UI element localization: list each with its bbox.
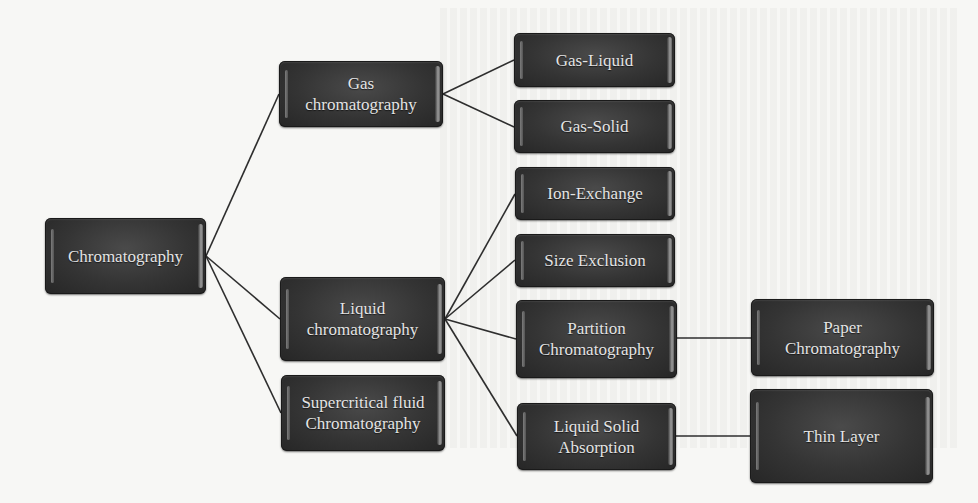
- node-label-line2: chromatography: [307, 320, 418, 339]
- node-label-line1: Paper: [823, 318, 862, 337]
- node-gas-solid[interactable]: Gas-Solid: [514, 100, 675, 153]
- node-label-line2: chromatography: [305, 95, 416, 114]
- node-label-line2: Chromatography: [785, 339, 900, 358]
- node-liquid-solid-absorption[interactable]: Liquid Solid Absorption: [517, 403, 676, 470]
- node-label: Liquid Solid Absorption: [544, 416, 649, 458]
- node-label-line1: Liquid: [340, 299, 385, 318]
- node-gas-liquid[interactable]: Gas-Liquid: [514, 33, 675, 87]
- edge-gas-gassolid: [443, 94, 514, 127]
- edge-root-supercritical: [206, 256, 281, 413]
- node-label: Supercritical fluid Chromatography: [297, 392, 428, 434]
- node-gas-chromatography[interactable]: Gas chromatography: [279, 61, 443, 127]
- node-label: Thin Layer: [794, 426, 890, 447]
- node-label-line1: Gas: [348, 74, 374, 93]
- node-thin-layer[interactable]: Thin Layer: [750, 389, 933, 483]
- node-size-exclusion[interactable]: Size Exclusion: [515, 234, 675, 287]
- node-supercritical-fluid-chromatography[interactable]: Supercritical fluid Chromatography: [281, 375, 445, 451]
- node-label: Gas chromatography: [295, 73, 426, 115]
- node-label: Ion-Exchange: [537, 183, 652, 204]
- node-label: Gas-Liquid: [546, 50, 643, 71]
- edge-gas-gasliquid: [443, 60, 514, 94]
- node-label: Chromatography: [58, 246, 193, 267]
- node-label-line2: Absorption: [558, 438, 635, 457]
- edge-root-gas: [206, 94, 279, 256]
- node-label: Size Exclusion: [534, 250, 656, 271]
- node-label-line2: Chromatography: [305, 414, 420, 433]
- edge-liquid-sizeexclusion: [445, 260, 515, 319]
- node-chromatography[interactable]: Chromatography: [45, 218, 206, 294]
- node-label: Gas-Solid: [551, 116, 639, 137]
- node-label: Paper Chromatography: [775, 317, 910, 359]
- edge-root-liquid: [206, 256, 280, 319]
- node-ion-exchange[interactable]: Ion-Exchange: [515, 167, 675, 220]
- node-paper-chromatography[interactable]: Paper Chromatography: [751, 299, 934, 376]
- node-partition-chromatography[interactable]: Partition Chromatography: [516, 300, 677, 378]
- node-label: Liquid chromatography: [297, 298, 428, 340]
- node-label: Partition Chromatography: [535, 318, 658, 360]
- node-label-line1: Partition: [567, 319, 626, 338]
- node-label-line2: Chromatography: [539, 340, 654, 359]
- edge-liquid-ionexchange: [445, 194, 515, 319]
- node-label-line1: Liquid Solid: [554, 417, 639, 436]
- node-label-line1: Supercritical fluid: [301, 393, 424, 412]
- node-liquid-chromatography[interactable]: Liquid chromatography: [280, 277, 445, 361]
